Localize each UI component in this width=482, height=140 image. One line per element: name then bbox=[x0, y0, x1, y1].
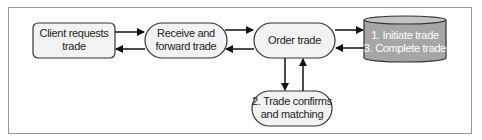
node-receive-label-2: forward trade bbox=[156, 40, 217, 52]
trade-flow-diagram: Client requests trade Receive and forwar… bbox=[0, 0, 482, 140]
node-confirm-label-1: 2. Trade confirms bbox=[252, 95, 333, 107]
node-receive-label-1: Receive and bbox=[157, 27, 215, 39]
node-order-label: Order trade bbox=[268, 34, 321, 46]
node-db-label-2: 3. Complete trade bbox=[364, 42, 447, 54]
node-db-label-1: 1. Initiate trade bbox=[371, 29, 439, 41]
node-confirm-label-2: and matching bbox=[261, 108, 324, 120]
node-client-label-2: trade bbox=[62, 40, 86, 52]
node-client-label-1: Client requests bbox=[40, 27, 110, 39]
